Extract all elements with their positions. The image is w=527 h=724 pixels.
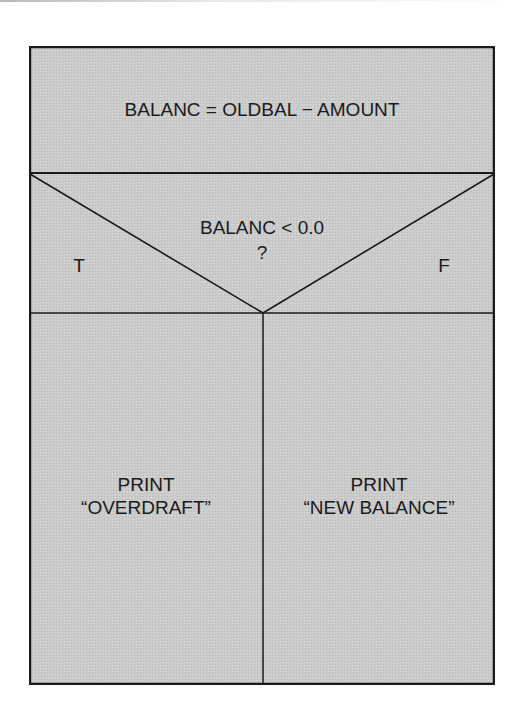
decision-question-mark: ? — [162, 241, 362, 264]
false-branch-message: “NEW BALANCE” — [263, 496, 495, 519]
false-label: F — [434, 254, 454, 277]
false-branch-command: PRINT — [263, 473, 495, 496]
decision-condition: BALANC < 0.0 — [162, 216, 362, 239]
process-statement: BALANC = OLDBAL − AMOUNT — [29, 98, 495, 121]
true-label: T — [69, 254, 89, 277]
true-branch-message: “OVERDRAFT” — [29, 496, 263, 519]
true-branch-command: PRINT — [29, 473, 263, 496]
scan-edge — [0, 0, 527, 2]
chart-fill — [30, 47, 494, 684]
chart-frame — [29, 46, 495, 685]
nassi-shneiderman-chart: BALANC = OLDBAL − AMOUNT BALANC < 0.0 ? … — [29, 46, 495, 685]
